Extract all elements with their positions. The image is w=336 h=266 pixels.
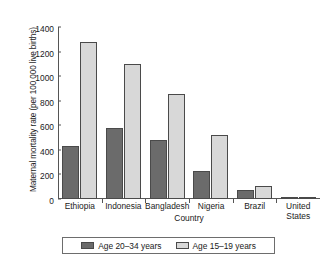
y-axis-tick-label: 1000 bbox=[35, 73, 58, 83]
y-axis-tick: 0 bbox=[49, 190, 58, 208]
bar-group bbox=[276, 27, 320, 199]
chart-legend: Age 20–34 years Age 15–19 years bbox=[62, 237, 275, 254]
bar-group bbox=[233, 27, 277, 199]
bar[interactable] bbox=[237, 190, 254, 199]
y-axis-tick-label: 1400 bbox=[35, 24, 58, 34]
bar[interactable] bbox=[80, 42, 97, 199]
legend-entry-age-15-19: Age 15–19 years bbox=[176, 241, 256, 251]
y-axis-tick: 1000 bbox=[35, 67, 58, 85]
bar[interactable] bbox=[211, 135, 228, 200]
bar[interactable] bbox=[193, 171, 210, 199]
bar[interactable] bbox=[62, 146, 79, 199]
y-axis-tick: 1200 bbox=[35, 43, 58, 61]
legend-label-age-15-19: Age 15–19 years bbox=[193, 241, 256, 251]
bar-group bbox=[189, 27, 233, 199]
y-axis-tick: 200 bbox=[40, 165, 58, 183]
y-axis-tick-label: 800 bbox=[40, 98, 58, 108]
bar[interactable] bbox=[124, 64, 141, 199]
bar[interactable] bbox=[299, 197, 316, 199]
y-axis-tick-label: 1200 bbox=[35, 49, 58, 59]
bar[interactable] bbox=[106, 128, 123, 199]
y-axis-tick: 800 bbox=[40, 92, 58, 110]
legend-label-age-20-34: Age 20–34 years bbox=[98, 241, 161, 251]
plot-area: 0200400600800100012001400 bbox=[58, 27, 320, 199]
y-axis-title: Maternal mortality rate (per 100 000 liv… bbox=[29, 10, 38, 210]
y-axis-tick-label: 0 bbox=[49, 196, 58, 206]
bar[interactable] bbox=[150, 140, 167, 199]
y-axis-tick-label: 400 bbox=[40, 147, 58, 157]
y-axis-tick: 400 bbox=[40, 141, 58, 159]
bar-group bbox=[145, 27, 189, 199]
bar[interactable] bbox=[281, 197, 298, 199]
bar[interactable] bbox=[255, 186, 272, 199]
y-axis-tick: 600 bbox=[40, 116, 58, 134]
legend-swatch-age-15-19 bbox=[176, 242, 189, 249]
bar-group bbox=[102, 27, 146, 199]
bar-group bbox=[58, 27, 102, 199]
bar[interactable] bbox=[168, 94, 185, 199]
legend-entry-age-20-34: Age 20–34 years bbox=[81, 241, 161, 251]
maternal-mortality-bar-chart: Maternal mortality rate (per 100 000 liv… bbox=[0, 0, 336, 266]
legend-swatch-age-20-34 bbox=[81, 242, 94, 249]
bar-groups bbox=[58, 27, 320, 199]
y-axis-tick: 1400 bbox=[35, 18, 58, 36]
x-axis-title: Country bbox=[58, 213, 320, 223]
y-axis-tick-label: 200 bbox=[40, 171, 58, 181]
y-axis-tick-label: 600 bbox=[40, 122, 58, 132]
